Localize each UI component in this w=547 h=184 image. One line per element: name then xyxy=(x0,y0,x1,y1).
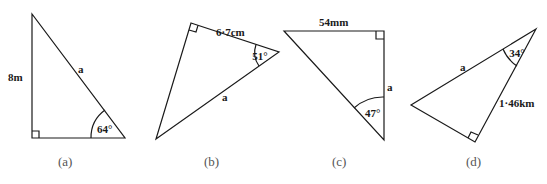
triangle-d: a 34° 1·46km (d) xyxy=(411,29,536,169)
caption-b: (b) xyxy=(204,154,219,169)
right-angle-marker-d xyxy=(468,132,478,138)
angle-label-64: 64° xyxy=(97,123,112,135)
triangle-b: 6·7cm 51° a (b) xyxy=(156,23,279,169)
caption-d: (d) xyxy=(466,154,481,169)
hypotenuse-label-a: a xyxy=(78,63,84,75)
triangle-diagrams: 8m a 64° (a) 6·7cm 51° a (b) 54mm a 47° … xyxy=(0,0,547,184)
hypotenuse-label-a: a xyxy=(460,61,466,73)
hypotenuse-label-a: a xyxy=(222,91,228,103)
right-angle-marker-a xyxy=(32,131,39,138)
angle-label-51: 51° xyxy=(252,50,267,62)
triangle-c-outline xyxy=(284,31,384,140)
caption-a: (a) xyxy=(58,154,72,169)
triangle-a-outline xyxy=(32,14,125,138)
triangle-c: 54mm a 47° (c) xyxy=(284,16,393,169)
triangle-d-outline xyxy=(411,29,536,142)
angle-label-47: 47° xyxy=(365,107,380,119)
side-label-8m: 8m xyxy=(8,71,23,83)
right-angle-marker-c xyxy=(376,31,384,39)
side-label-1-46km: 1·46km xyxy=(499,97,534,109)
triangle-a: 8m a 64° (a) xyxy=(8,14,125,169)
side-label-6-7cm: 6·7cm xyxy=(216,26,245,38)
angle-label-34: 34° xyxy=(509,47,524,59)
diagram-canvas: 8m a 64° (a) 6·7cm 51° a (b) 54mm a 47° … xyxy=(0,0,547,184)
side-label-54mm: 54mm xyxy=(319,16,348,28)
side-label-a: a xyxy=(387,81,393,93)
caption-c: (c) xyxy=(332,154,346,169)
triangle-b-outline xyxy=(156,23,279,139)
